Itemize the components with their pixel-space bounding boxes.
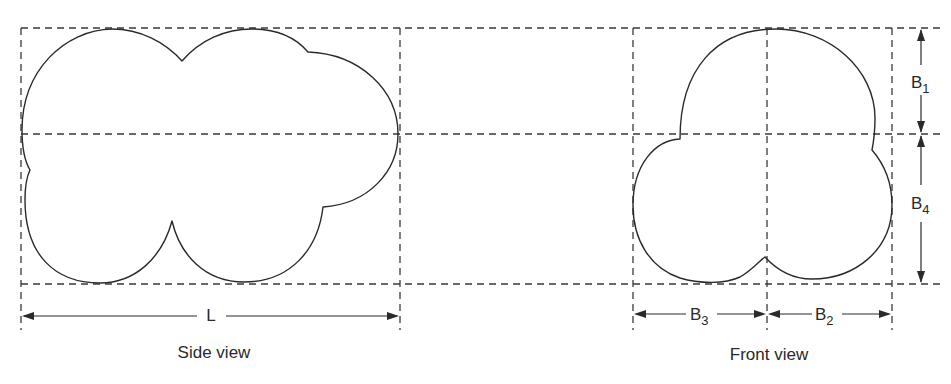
construction-lines (21, 28, 940, 330)
length-arrow-right-icon (387, 312, 399, 320)
b4-arrow-down-icon (917, 271, 925, 283)
b1-dimension: B1 (911, 29, 930, 133)
front-view-caption: Front view (730, 345, 809, 364)
b3-arrow-left-icon (634, 310, 646, 318)
b4-dimension: B4 (911, 135, 930, 283)
b3-dimension: B3 (634, 305, 766, 328)
length-label: L (206, 306, 215, 325)
b3-arrow-right-icon (754, 310, 766, 318)
b3-label: B3 (690, 305, 709, 328)
b4-arrow-up-icon (917, 135, 925, 147)
b4-label: B4 (911, 194, 930, 217)
length-dimension: L (22, 306, 399, 325)
b2-arrow-right-icon (879, 310, 891, 318)
b1-arrow-down-icon (917, 121, 925, 133)
b1-label: B1 (911, 73, 930, 96)
side-view-caption: Side view (178, 343, 251, 362)
b2-arrow-left-icon (768, 310, 780, 318)
b1-arrow-up-icon (917, 29, 925, 41)
b2-label: B2 (815, 305, 834, 328)
dimension-diagram: L Side view B3 B2 B1 (0, 0, 951, 384)
length-arrow-left-icon (22, 312, 34, 320)
front-view-outline (633, 29, 892, 282)
side-view-outline (22, 29, 398, 283)
b2-dimension: B2 (768, 305, 891, 328)
